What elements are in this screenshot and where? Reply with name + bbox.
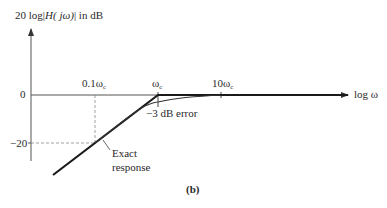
exact-response-label-line2: response	[112, 162, 151, 173]
asymptote-line	[53, 95, 348, 175]
y-label-func: H	[45, 9, 53, 21]
y-tick-label-minus20: −20	[10, 138, 27, 149]
exact-response-curve	[95, 95, 221, 143]
exact-response-leader	[103, 140, 110, 150]
y-tick-label-0: 0	[20, 89, 26, 100]
error-annotation: −3 dB error	[146, 108, 197, 119]
x-tick-wc-sub: c	[159, 83, 162, 91]
exact-response-label-line1: Exact	[112, 148, 137, 159]
x-tick-10wc-main: 10ω	[212, 77, 230, 89]
x-tick-label-10wc: 10ωc	[212, 78, 233, 91]
x-tick-01wc-main: 0.1ω	[82, 77, 103, 89]
y-label-suffix: | in dB	[74, 9, 103, 21]
x-tick-10wc-sub: c	[230, 83, 233, 91]
x-tick-label-wc: ωc	[152, 78, 162, 91]
figure-caption: (b)	[186, 184, 199, 195]
x-axis-label: log ω	[354, 89, 378, 100]
x-tick-01wc-sub: c	[103, 83, 106, 91]
y-axis-label: 20 log|H( jω)| in dB	[15, 10, 103, 21]
x-tick-label-01wc: 0.1ωc	[82, 78, 106, 91]
bode-plot-canvas	[0, 0, 387, 208]
y-label-arg: ( jω)	[53, 9, 74, 21]
y-label-prefix: 20 log|	[15, 9, 45, 21]
